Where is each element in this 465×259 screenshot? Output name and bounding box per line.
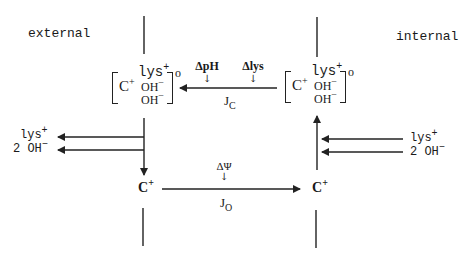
- bracket-right: [167, 72, 173, 104]
- uptake-lys-label: lys+: [410, 131, 438, 145]
- bracket-left: [112, 72, 118, 104]
- complex-oh-2: OH−: [314, 92, 337, 107]
- complex-oh-2: OH−: [141, 93, 164, 108]
- down-arrow-icon: ↓: [236, 74, 270, 84]
- complex-superscript: o: [348, 65, 354, 80]
- down-arrow-icon: ↓: [214, 172, 234, 182]
- driving-force-dlys: Δlys ↓: [236, 59, 270, 84]
- complex-lys: lys+: [138, 64, 169, 80]
- complex-cation: C+: [292, 77, 308, 94]
- flux-jc-label: JC: [224, 93, 236, 109]
- complex-external: C+ lys+ OH− OH− o: [112, 64, 182, 110]
- bracket-left: [285, 71, 291, 103]
- down-arrow-icon: ↓: [192, 74, 222, 84]
- complex-lys: lys+: [311, 63, 342, 79]
- complex-superscript: o: [175, 66, 181, 81]
- driving-force-dpsi: ΔΨ ↓: [214, 160, 234, 182]
- internal-label: internal: [396, 29, 458, 44]
- release-oh-label: 2 OH−: [13, 142, 48, 156]
- complex-cation: C+: [119, 78, 135, 95]
- complex-internal: C+ lys+ OH− OH− o: [285, 63, 355, 109]
- cation-internal: C+: [312, 180, 328, 196]
- driving-force-dph: ΔpH ↓: [192, 59, 222, 84]
- bracket-right: [340, 71, 346, 103]
- cation-external: C+: [138, 180, 154, 196]
- uptake-oh-label: 2 OH−: [410, 145, 445, 159]
- flux-jo-label: JO: [220, 195, 232, 211]
- external-label: external: [28, 26, 90, 41]
